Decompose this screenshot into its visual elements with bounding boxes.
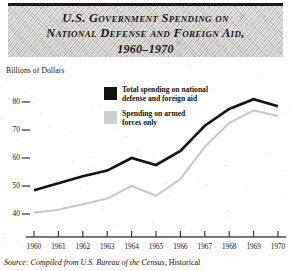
paper-speck [166,183,167,184]
paper-speck [114,129,115,130]
paper-speck [161,102,163,103]
paper-speck [250,174,252,175]
paper-speck [258,74,259,75]
paper-speck [92,166,93,167]
paper-speck [17,140,19,141]
chart-figure: U.S. Government Spending on National Def… [0,0,291,271]
paper-speck [71,131,72,132]
paper-speck [285,170,286,171]
legend-label-total-defense: Total spending on national defense and f… [122,86,208,103]
paper-speck [99,104,100,105]
paper-speck [93,157,94,158]
paper-speck [87,224,88,225]
paper-speck [127,82,128,83]
paper-speck [166,109,167,110]
x-tick-label: 1965 [144,243,168,251]
paper-speck [269,153,270,154]
paper-speck [197,108,198,109]
paper-speck [157,166,159,167]
paper-speck [191,230,192,231]
x-tick-label: 1966 [168,243,192,251]
paper-speck [195,252,196,253]
paper-speck [81,267,82,268]
paper-speck [18,189,19,190]
paper-speck [125,136,127,137]
paper-speck [50,232,51,233]
paper-speck [45,247,47,248]
paper-speck [205,184,207,185]
paper-speck [24,186,25,187]
legend-label-armed-forces: Spending on armed forces only [122,110,185,127]
source-note-prefix: Source: Compiled from U.S. Bureau of the… [4,258,167,267]
paper-speck [86,173,87,174]
paper-speck [152,80,153,81]
paper-speck [246,186,247,187]
paper-speck [188,64,190,65]
paper-speck [4,237,6,238]
paper-speck [144,242,146,243]
paper-speck [199,243,200,244]
paper-speck [129,188,130,189]
paper-speck [147,87,149,88]
paper-speck [225,252,227,253]
y-tick-label: 40 [4,209,20,218]
paper-speck [287,192,288,193]
x-tick-label: 1962 [71,243,95,251]
x-tick-label: 1967 [193,243,217,251]
x-tick-label: 1970 [266,243,290,251]
paper-speck [120,122,121,123]
x-tick-label: 1969 [242,243,266,251]
paper-speck [0,85,1,86]
y-tick-label: 60 [4,153,20,162]
paper-speck [92,106,93,107]
paper-speck [161,238,162,239]
x-tick-label: 1960 [22,243,46,251]
paper-speck [126,201,127,202]
legend-item-armed-forces: Spending on armed forces only [104,110,224,127]
paper-speck [200,83,201,84]
paper-speck [12,105,13,106]
paper-speck [227,211,229,212]
y-tick-marks [22,102,30,214]
paper-speck [158,225,159,226]
paper-speck [34,231,35,232]
paper-speck [80,187,81,188]
paper-speck [36,238,37,239]
paper-speck [229,216,230,217]
paper-speck [198,181,199,182]
paper-speck [197,265,198,266]
paper-speck [63,73,64,74]
paper-speck [288,104,289,105]
title-banner: U.S. Government Spending on National Def… [8,3,283,57]
legend-label-line2: defense and foreign aid [122,95,208,104]
paper-speck [137,150,139,151]
paper-speck [215,247,216,248]
paper-speck [269,254,271,255]
paper-speck [210,215,211,216]
paper-speck [4,243,5,244]
x-tick-label: 1968 [217,243,241,251]
paper-speck [72,160,74,161]
paper-speck [114,224,115,225]
paper-speck [152,155,153,156]
paper-speck [167,63,169,64]
legend-swatch-gray-icon [104,111,117,124]
x-tick-label: 1961 [46,243,70,251]
y-axis-caption: Billions of Dollars [6,66,64,75]
y-tick-label: 70 [4,125,20,134]
paper-speck [23,220,24,221]
paper-speck [236,234,238,235]
paper-speck [0,119,1,120]
legend-swatch-black-icon [104,87,117,100]
x-tick-label: 1964 [120,243,144,251]
x-axis-ticks [0,224,291,242]
paper-speck [102,209,103,210]
page-title-line3: 1960–1970 [8,42,283,57]
paper-speck [169,195,170,196]
legend-label-line2: forces only [122,119,185,128]
paper-speck [153,221,154,222]
paper-speck [8,209,9,210]
paper-speck [84,235,85,236]
paper-speck [122,83,123,84]
paper-speck [173,181,174,182]
